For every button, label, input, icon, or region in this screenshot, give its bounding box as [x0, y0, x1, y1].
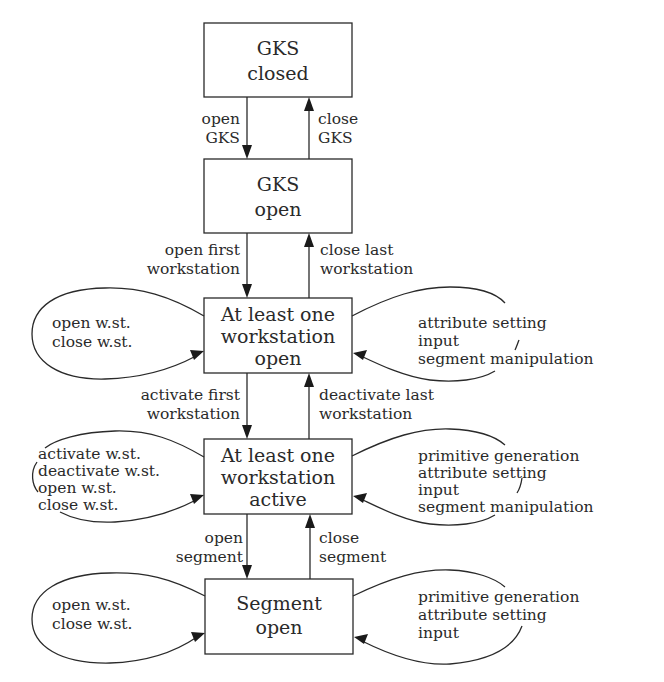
- arrowhead-up-icon: [304, 97, 314, 111]
- transition-open-first-workstation: open first workstation: [147, 233, 252, 298]
- svg-text:close: close: [319, 529, 359, 547]
- svg-text:segment manipulation: segment manipulation: [418, 498, 594, 516]
- svg-text:deactivate last: deactivate last: [319, 386, 435, 404]
- svg-text:close: close: [318, 110, 358, 128]
- state-label: GKS: [257, 173, 299, 195]
- svg-text:primitive generation: primitive generation: [418, 588, 579, 606]
- svg-text:close w.st.: close w.st.: [52, 333, 133, 351]
- state-gks-open: GKS open: [204, 159, 352, 233]
- svg-text:deactivate w.st.: deactivate w.st.: [38, 462, 160, 480]
- state-label: At least one: [220, 303, 335, 325]
- svg-text:segment: segment: [319, 548, 387, 566]
- svg-text:close last: close last: [320, 241, 394, 259]
- svg-text:workstation: workstation: [319, 405, 412, 423]
- transition-open-segment: open segment: [176, 514, 252, 579]
- state-label: GKS: [257, 37, 299, 59]
- svg-text:input: input: [418, 624, 460, 642]
- gks-state-diagram: GKS closed GKS open At least one worksta…: [0, 0, 664, 682]
- state-label: workstation: [221, 325, 335, 347]
- state-label: open: [255, 616, 302, 638]
- svg-text:GKS: GKS: [205, 129, 240, 147]
- state-gks-closed: GKS closed: [204, 23, 352, 97]
- svg-text:open: open: [202, 110, 240, 128]
- svg-text:attribute setting: attribute setting: [418, 606, 547, 624]
- state-label: At least one: [220, 444, 335, 466]
- svg-text:workstation: workstation: [147, 260, 240, 278]
- state-ws-active: At least one workstation active: [204, 439, 352, 514]
- svg-text:input: input: [418, 481, 460, 499]
- svg-text:input: input: [418, 332, 460, 350]
- state-label: workstation: [221, 466, 335, 488]
- arrowhead-icon: [191, 632, 205, 642]
- state-label: open: [254, 347, 301, 369]
- svg-text:segment manipulation: segment manipulation: [418, 350, 594, 368]
- state-label: open: [254, 198, 301, 220]
- svg-text:attribute setting: attribute setting: [418, 314, 547, 332]
- svg-text:workstation: workstation: [147, 405, 240, 423]
- state-label: active: [249, 488, 307, 510]
- loop-ws-active-left: activate w.st. deactivate w.st. open w.s…: [33, 431, 204, 522]
- svg-text:activate w.st.: activate w.st.: [38, 445, 141, 463]
- svg-text:close w.st.: close w.st.: [38, 496, 119, 514]
- svg-text:primitive generation: primitive generation: [418, 447, 579, 465]
- state-segment-open: Segment open: [205, 579, 353, 654]
- svg-text:open w.st.: open w.st.: [38, 479, 117, 497]
- svg-text:open first: open first: [165, 241, 241, 259]
- svg-text:close w.st.: close w.st.: [52, 615, 133, 633]
- state-label: closed: [247, 62, 308, 84]
- transition-activate-first-workstation: activate first workstation: [141, 373, 252, 439]
- transition-deactivate-last-workstation: deactivate last workstation: [304, 373, 435, 439]
- loop-ws-open-right: attribute setting input segment manipula…: [352, 287, 594, 381]
- arrowhead-down-icon: [242, 425, 252, 439]
- loop-seg-open-left: open w.st. close w.st.: [32, 573, 205, 663]
- transition-close-last-workstation: close last workstation: [304, 233, 413, 298]
- svg-text:open: open: [205, 529, 243, 547]
- state-label: Segment: [236, 592, 322, 614]
- arrowhead-up-icon: [304, 233, 314, 247]
- arrowhead-down-icon: [242, 565, 252, 579]
- arrowhead-up-icon: [304, 373, 314, 387]
- loop-ws-active-right: primitive generation attribute setting i…: [352, 429, 594, 525]
- arrowhead-up-icon: [305, 514, 315, 528]
- svg-text:open w.st.: open w.st.: [52, 314, 131, 332]
- arrowhead-down-icon: [242, 284, 252, 298]
- svg-text:workstation: workstation: [320, 260, 413, 278]
- svg-text:attribute setting: attribute setting: [418, 464, 547, 482]
- arrowhead-down-icon: [242, 145, 252, 159]
- svg-text:GKS: GKS: [318, 129, 353, 147]
- loop-ws-open-left: open w.st. close w.st.: [32, 288, 204, 379]
- svg-text:segment: segment: [176, 548, 244, 566]
- svg-text:activate first: activate first: [141, 386, 241, 404]
- svg-text:open w.st.: open w.st.: [52, 596, 131, 614]
- transition-close-segment: close segment: [305, 514, 387, 579]
- transition-open-gks: open GKS: [202, 97, 252, 159]
- state-ws-open: At least one workstation open: [204, 298, 352, 373]
- transition-close-gks: close GKS: [304, 97, 358, 159]
- loop-seg-open-right: primitive generation attribute setting i…: [353, 570, 579, 664]
